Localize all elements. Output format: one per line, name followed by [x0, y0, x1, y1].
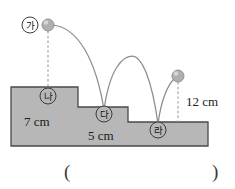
dimension-7cm: 7 cm: [24, 114, 50, 129]
point-label-da-text: 다: [100, 109, 109, 120]
point-label-ra-text: 라: [154, 125, 163, 136]
dimension-12cm: 12 cm: [186, 94, 218, 109]
bounce-diagram: 가 나 다 라 7 cm 5 cm 12 cm ( ): [0, 0, 235, 189]
ball-start: [42, 19, 54, 31]
point-label-da: 다: [96, 106, 112, 122]
point-label-ga-text: 가: [26, 20, 35, 31]
answer-open-paren: (: [64, 161, 70, 183]
point-label-ga: 가: [22, 17, 38, 33]
answer-close-paren: ): [212, 161, 218, 183]
dimension-5cm: 5 cm: [88, 128, 114, 143]
trajectory-arc-3: [158, 78, 175, 124]
point-label-na-text: 나: [44, 91, 53, 102]
point-label-na: 나: [40, 88, 56, 104]
ball-end: [172, 70, 184, 82]
point-label-ra: 라: [150, 122, 166, 138]
figure-container: 가 나 다 라 7 cm 5 cm 12 cm ( ): [0, 0, 235, 189]
